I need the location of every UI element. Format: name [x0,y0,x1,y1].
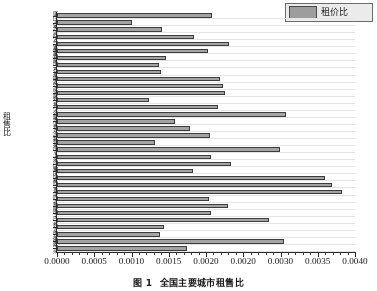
y-axis-tick [53,248,57,249]
gridline [57,145,355,146]
gridline [57,166,355,167]
y-axis-tick [53,100,57,101]
figure-container: 租价比 租售比 厦门宁波天津武汉乌鲁木齐南昌太原南宁石家庄济南住房沈阳郑州长沙合… [0,0,377,291]
gridline [57,124,355,125]
gridline [57,187,355,188]
y-axis-tick [53,79,57,80]
bar [57,20,132,24]
bar [57,63,159,67]
x-axis-tick-label: 0.0035 [305,256,330,266]
y-axis-tick [53,65,57,66]
y-axis-tick [53,171,57,172]
y-axis-tick [53,241,57,242]
bar [57,98,149,102]
gridline [57,18,355,19]
gridline [57,46,355,47]
gridline [57,32,355,33]
x-axis-tick-minor [303,252,304,255]
gridline [57,53,355,54]
figure-caption: 图 1全国主要城市租售比 [0,276,377,291]
y-axis-tick [53,58,57,59]
bar [57,91,225,95]
gridline [57,39,355,40]
gridline [57,216,355,217]
x-axis-tick-minor [139,252,140,255]
bar [57,225,164,229]
bar [57,77,220,81]
bar [57,140,155,144]
gridline [57,223,355,224]
y-axis-tick [53,121,57,122]
y-axis-tick [53,44,57,45]
y-axis-tick [53,234,57,235]
bar [57,176,325,180]
gridline [57,82,355,83]
y-axis-tick [53,37,57,38]
x-axis-tick-minor [109,252,110,255]
x-axis-tick-minor [87,252,88,255]
y-axis-tick [53,72,57,73]
x-axis-tick-minor [340,252,341,255]
gridline [57,75,355,76]
bar [57,133,210,137]
bar [57,162,231,166]
x-axis-tick-minor [288,252,289,255]
y-axis-tick [53,164,57,165]
x-axis-tick-minor [251,252,252,255]
y-axis-tick [53,114,57,115]
bar [57,204,228,208]
x-axis-tick-minor [146,252,147,255]
bar [57,218,269,222]
y-axis-tick [53,143,57,144]
x-axis-tick-minor [295,252,296,255]
gridline [57,138,355,139]
y-axis-tick [53,86,57,87]
bar [57,56,166,60]
x-axis-tick-label: 0.0020 [231,256,256,266]
y-axis-tick [53,128,57,129]
gridline [57,131,355,132]
x-axis-tick-minor [213,252,214,255]
bar [57,147,280,151]
bar [57,169,193,173]
y-axis-tick [53,220,57,221]
bar [57,84,223,88]
y-axis-tick [53,192,57,193]
x-axis-tick-minor [258,252,259,255]
bar [57,70,161,74]
x-axis-tick-minor [236,252,237,255]
gridline [57,209,355,210]
x-axis-tick-label: 0.0020 [193,256,218,266]
x-axis-tick-label: 0.0030 [268,256,293,266]
gridline [57,152,355,153]
y-axis-tick [53,51,57,52]
x-axis-tick-minor [154,252,155,255]
plot-area [57,12,355,252]
caption-number: 图 1 [133,278,153,288]
y-axis-category-labels: 厦门宁波天津武汉乌鲁木齐南昌太原南宁石家庄济南住房沈阳郑州长沙合肥大连青岛深圳杭… [20,12,57,252]
x-axis-tick-minor [117,252,118,255]
bar [57,119,175,123]
x-axis-tick-minor [348,252,349,255]
y-axis-tick [53,30,57,31]
x-axis-tick-minor [79,252,80,255]
gridline [57,159,355,160]
x-axis-tick-minor [124,252,125,255]
bar [57,27,162,31]
x-axis-tick-minor [325,252,326,255]
bar [57,211,211,215]
y-axis-tick [53,16,57,17]
x-axis-tick-label: 0.0000 [44,256,69,266]
x-axis-tick-minor [199,252,200,255]
x-axis-tick-label: 0.0015 [156,256,181,266]
x-axis-tick-minor [266,252,267,255]
y-axis-tick [53,157,57,158]
y-axis-tick [53,136,57,137]
x-axis-tick-minor [64,252,65,255]
gridline [57,202,355,203]
gridline [57,89,355,90]
y-axis-tick [53,93,57,94]
y-axis-title: 租售比 [1,112,9,136]
gridline [57,110,355,111]
x-axis-tick-minor [184,252,185,255]
